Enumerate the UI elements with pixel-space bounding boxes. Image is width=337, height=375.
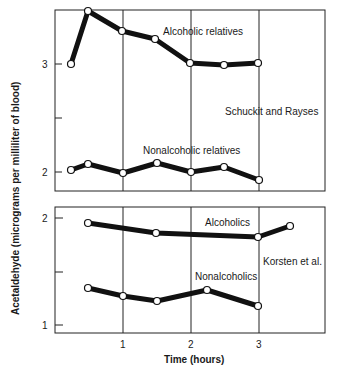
bottom-panel-yticks bbox=[55, 218, 63, 325]
top-panel-yticks bbox=[55, 64, 62, 172]
label-alcoholic-relatives: Alcoholic relatives bbox=[163, 26, 243, 37]
xtick-3: 3 bbox=[256, 339, 262, 350]
xtick-1: 1 bbox=[120, 339, 126, 350]
top-ytick-2: 2 bbox=[42, 167, 48, 178]
y-axis-title: Acetaldehyde (micrograms per milliliter … bbox=[10, 82, 21, 315]
xtick-2: 2 bbox=[188, 339, 194, 350]
series-nonalcoholic-relatives-line bbox=[71, 163, 259, 180]
series-alcoholic-relatives-line bbox=[71, 11, 258, 65]
label-nonalcoholics: Nonalcoholics bbox=[195, 271, 257, 282]
label-alcoholics: Alcoholics bbox=[205, 217, 250, 228]
bottom-ytick-2: 2 bbox=[42, 213, 48, 224]
annotation-korsten: Korsten et al. bbox=[263, 256, 322, 267]
bottom-ytick-1: 1 bbox=[42, 320, 48, 331]
annotation-schuckit-rayses: Schuckit and Rayses bbox=[225, 106, 318, 117]
top-ytick-3: 3 bbox=[42, 59, 48, 70]
series-nonalcoholics-line bbox=[88, 288, 258, 306]
chart-figure: 3 2 Alcoholic relatives Nonalcoholic rel… bbox=[0, 0, 337, 375]
x-axis-title: Time (hours) bbox=[164, 354, 224, 365]
label-nonalcoholic-relatives: Nonalcoholic relatives bbox=[143, 145, 240, 156]
